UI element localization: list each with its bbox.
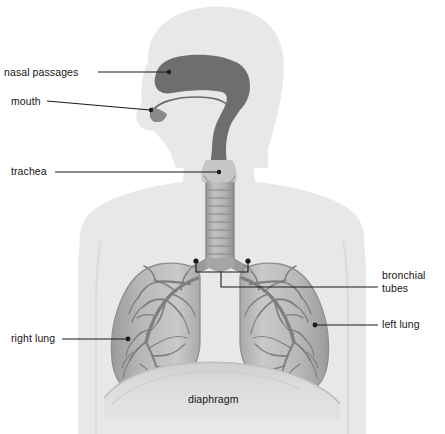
label-mouth: mouth (11, 95, 41, 108)
label-bronchial-tubes-line2: tubes (382, 282, 408, 294)
trachea (206, 182, 234, 262)
label-trachea: trachea (11, 165, 47, 178)
label-bronchial-tubes: bronchial tubes (382, 269, 426, 294)
label-bronchial-tubes-line1: bronchial (382, 269, 426, 281)
label-right-lung: right lung (11, 332, 55, 345)
label-diaphragm: diaphragm (188, 393, 239, 406)
respiratory-system-figure: nasal passages mouth trachea right lung … (0, 0, 445, 434)
label-left-lung: left lung (382, 318, 420, 331)
label-nasal-passages: nasal passages (4, 66, 78, 79)
